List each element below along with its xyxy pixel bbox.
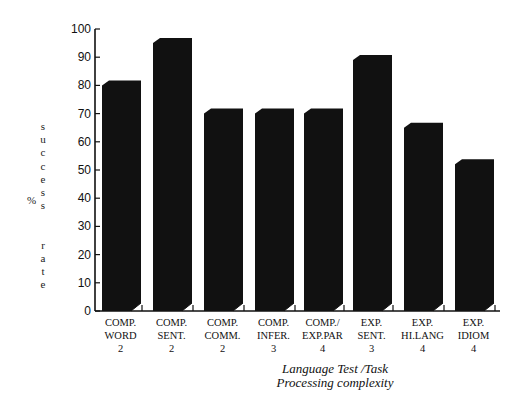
category-label: COMP. [207, 317, 238, 328]
bar [404, 123, 443, 311]
y-axis-label-letter: a [38, 252, 48, 265]
y-axis-label-letter: u [38, 133, 48, 146]
y-axis-percent-symbol: % [27, 194, 36, 206]
y-axis-label-letter: r [38, 239, 48, 252]
category-label: 3 [271, 343, 276, 354]
category-label: SENT. [157, 330, 185, 341]
y-axis-label-letter [38, 212, 48, 225]
bar [204, 109, 243, 311]
y-tick-label: 10 [78, 276, 92, 290]
category-label: HI.LANG [401, 330, 444, 341]
bar [304, 109, 343, 311]
category-label: COMP. [105, 317, 136, 328]
y-tick-label: 50 [78, 163, 92, 177]
y-tick-label: 90 [78, 50, 92, 64]
bar-chart: 0102030405060708090100 COMP.WORD2COMP.SE… [0, 0, 522, 416]
category-label: IDIOM [458, 330, 490, 341]
y-axis-label-letter: e [38, 173, 48, 186]
y-tick-label: 40 [78, 191, 92, 205]
y-axis-label-letter: c [38, 160, 48, 173]
bar [102, 80, 141, 311]
bar [455, 159, 494, 311]
x-axis-label-line1: Language Test /Task [240, 362, 430, 376]
y-tick-label: 70 [78, 107, 92, 121]
y-tick-label: 20 [78, 248, 92, 262]
category-label: EXP.PAR [302, 330, 343, 341]
category-labels: COMP.WORD2COMP.SENT.2COMP.COMM.2COMP.INF… [104, 317, 489, 354]
category-label: 4 [320, 343, 326, 354]
y-tick-label: 100 [71, 22, 91, 36]
category-label: EXP. [361, 317, 382, 328]
y-axis-label-letter: e [38, 278, 48, 291]
category-label: 2 [118, 343, 123, 354]
y-axis-label-letter: s [38, 120, 48, 133]
y-axis-label-letter: c [38, 146, 48, 159]
y-axis-label: successrate [38, 120, 48, 291]
category-label: 4 [420, 343, 426, 354]
category-label: 2 [220, 343, 225, 354]
category-label: 3 [369, 343, 374, 354]
category-label: EXP. [412, 317, 433, 328]
category-label: 4 [471, 343, 477, 354]
bar [153, 38, 192, 311]
y-tick-label: 60 [78, 135, 92, 149]
category-label: SENT. [357, 330, 385, 341]
x-axis-label-line2: Processing complexity [240, 376, 430, 390]
category-label: WORD [104, 330, 136, 341]
y-tick-label: 0 [84, 304, 91, 318]
bar [353, 55, 392, 311]
y-tick-label: 80 [78, 78, 92, 92]
category-label: 2 [169, 343, 174, 354]
y-axis-label-letter: t [38, 265, 48, 278]
y-axis-label-letter: s [38, 186, 48, 199]
category-label: COMM. [205, 330, 241, 341]
category-label: COMP./ [305, 317, 339, 328]
y-axis-label-letter: s [38, 199, 48, 212]
y-tick-label: 30 [78, 219, 92, 233]
bars [102, 38, 495, 311]
category-label: INFER. [257, 330, 290, 341]
y-axis-label-letter [38, 226, 48, 239]
category-label: COMP. [258, 317, 289, 328]
bar [255, 109, 294, 311]
category-label: EXP. [463, 317, 484, 328]
category-label: COMP. [156, 317, 187, 328]
x-axis-label: Language Test /Task Processing complexit… [240, 362, 430, 390]
